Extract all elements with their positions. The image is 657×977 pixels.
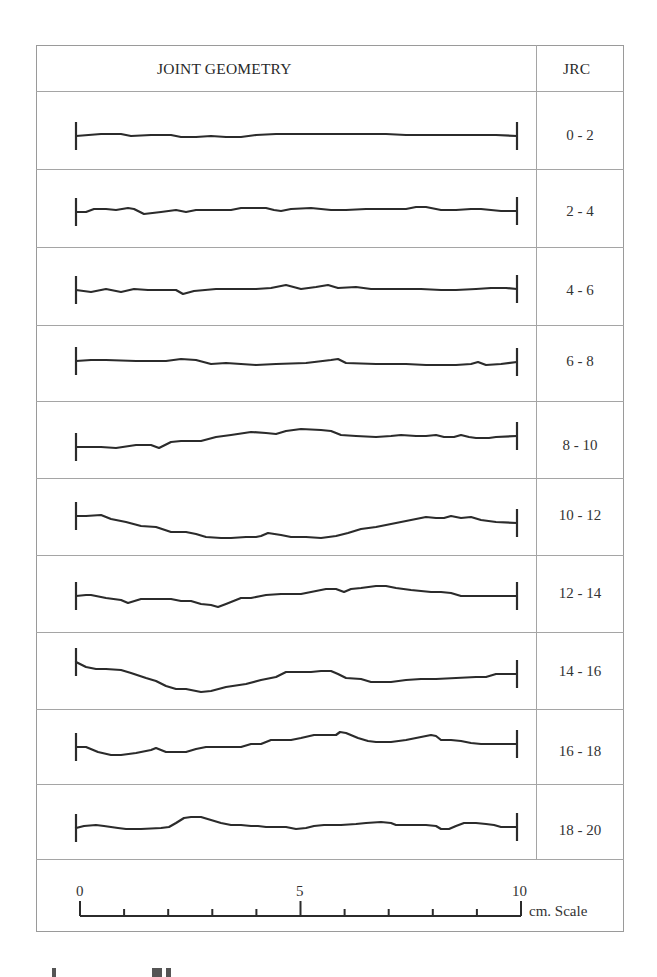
scale-label-5: 5 — [296, 883, 304, 900]
joint-profile-line — [76, 207, 517, 214]
cropped-text-fragment — [152, 968, 162, 977]
joint-profile-line — [76, 586, 517, 607]
joint-profile-line — [76, 359, 517, 365]
joint-profile-line — [76, 134, 517, 137]
joint-profile-line — [76, 662, 517, 692]
scale-label-10: 10 — [512, 883, 527, 900]
joint-profile-line — [76, 732, 517, 755]
scale-unit-label: cm. Scale — [529, 903, 587, 920]
joint-profile-line — [76, 285, 517, 294]
joint-profile-line — [76, 515, 517, 538]
scale-label-0: 0 — [76, 883, 84, 900]
joint-profile-line — [76, 429, 517, 448]
cropped-text-fragment — [52, 968, 56, 977]
joint-profile-line — [76, 817, 517, 829]
roughness-profiles — [0, 0, 657, 977]
cropped-text-fragment — [166, 968, 171, 977]
